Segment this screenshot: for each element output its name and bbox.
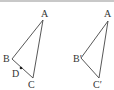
label-d: D: [12, 68, 19, 79]
label-b-prime: B′: [73, 53, 82, 64]
point-d: [20, 67, 23, 70]
label-c-prime: C′: [93, 79, 102, 90]
label-a-right: A: [104, 8, 112, 19]
label-c-left: C: [28, 79, 35, 90]
label-a-left: A: [41, 8, 49, 19]
diagram-svg: A B C D A B′ C′: [0, 0, 114, 90]
label-b-left: B: [3, 53, 10, 64]
triangle-ab-prime-c-prime: [81, 21, 108, 78]
geometry-figure: A B C D A B′ C′: [0, 0, 114, 90]
